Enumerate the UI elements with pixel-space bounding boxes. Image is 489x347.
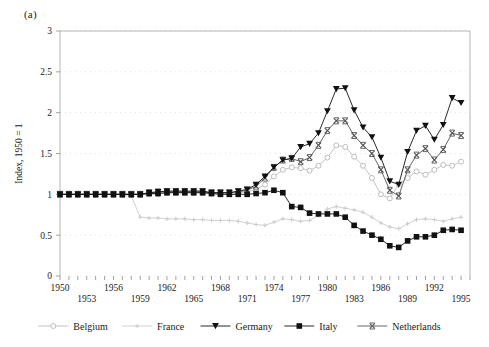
y-axis-title: Index, 1950 = 1 [14, 123, 24, 183]
open-circle-marker [263, 182, 268, 187]
axis-titles: Index, 1950 = 1 [14, 123, 24, 183]
series-line [60, 88, 461, 194]
y-tick-label: 1.5 [40, 149, 52, 159]
x-marker [396, 193, 401, 199]
legend-label: France [157, 321, 185, 332]
x-marker [414, 152, 419, 158]
open-circle-marker [378, 192, 383, 197]
plus-marker [227, 218, 231, 222]
legend-item-belgium[interactable]: Belgium [38, 321, 108, 332]
x-marker [352, 133, 357, 139]
x-marker [458, 133, 463, 139]
plus-marker [423, 217, 427, 221]
open-circle-marker [307, 168, 312, 173]
filled-triangle-marker [297, 144, 304, 150]
plus-marker [450, 217, 454, 221]
plus-marker [396, 226, 400, 230]
x-marker [387, 187, 392, 193]
plus-marker [245, 221, 249, 225]
y-tick-label: 2 [47, 108, 52, 118]
plus-marker [191, 217, 195, 221]
series-france [58, 192, 463, 231]
filled-square-marker [342, 214, 348, 220]
open-circle-marker [414, 169, 419, 174]
y-tick-label: 3 [47, 26, 52, 36]
filled-square-marker [325, 211, 331, 217]
filled-square-marker [378, 236, 384, 242]
x-tick-label: 1974 [264, 283, 283, 293]
plus-marker [209, 218, 213, 222]
series-line [60, 194, 461, 228]
open-circle-marker [325, 155, 330, 160]
filled-triangle-marker [404, 149, 411, 155]
open-circle-marker [316, 163, 321, 168]
filled-square-marker [280, 190, 286, 196]
legend-item-france[interactable]: France [122, 321, 185, 332]
filled-square-marker [405, 238, 411, 244]
open-circle-marker [298, 166, 303, 171]
filled-triangle-marker [431, 137, 438, 143]
plus-marker [135, 324, 139, 328]
series-italy [57, 187, 464, 250]
plus-marker [236, 219, 240, 223]
plus-marker [147, 216, 151, 220]
filled-square-marker [262, 190, 268, 196]
legend-item-germany[interactable]: Germany [201, 321, 273, 332]
filled-triangle-marker [413, 128, 420, 134]
open-circle-marker [334, 143, 339, 148]
open-circle-marker [432, 167, 437, 172]
plus-marker [405, 222, 409, 226]
open-circle-marker [271, 174, 276, 179]
y-tick-label: 0.5 [40, 231, 52, 241]
filled-triangle-marker [369, 134, 376, 140]
legend-item-italy[interactable]: Italy [284, 321, 337, 332]
plus-marker [352, 208, 356, 212]
open-circle-marker [450, 163, 455, 168]
filled-square-marker [289, 204, 295, 210]
plus-marker [334, 204, 338, 208]
figure-panel: (a) 00.511.522.5319501956196219681974198… [0, 0, 489, 347]
open-circle-marker [423, 172, 428, 177]
x-marker [450, 130, 455, 136]
filled-triangle-marker [449, 95, 456, 101]
open-circle-marker [343, 144, 348, 149]
open-circle-marker [387, 196, 392, 201]
filled-square-marker [360, 228, 366, 234]
filled-square-marker [387, 243, 393, 249]
filled-square-marker [334, 211, 340, 217]
filled-square-marker [298, 205, 304, 211]
open-circle-marker [352, 154, 357, 159]
x-tick-label: 1989 [398, 294, 417, 304]
x-tick-label: 1950 [51, 283, 70, 293]
x-marker [298, 159, 303, 165]
x-marker [307, 155, 312, 161]
plus-marker [281, 217, 285, 221]
plus-marker [254, 222, 258, 226]
plus-marker [307, 218, 311, 222]
plus-marker [218, 218, 222, 222]
x-marker [432, 157, 437, 163]
x-marker [405, 167, 410, 173]
plus-marker [432, 217, 436, 221]
filled-triangle-marker [377, 155, 384, 161]
x-marker [441, 146, 446, 152]
x-tick-label: 1983 [345, 294, 364, 304]
open-circle-marker [289, 165, 294, 170]
filled-triangle-marker [458, 100, 465, 106]
plus-marker [156, 216, 160, 220]
open-circle-marker [361, 163, 366, 168]
plus-marker [441, 219, 445, 223]
filled-square-marker [316, 211, 322, 217]
filled-square-marker [307, 210, 313, 216]
legend-item-netherlands[interactable]: Netherlands [357, 321, 440, 332]
plus-marker [361, 210, 365, 214]
filled-square-marker [253, 191, 259, 197]
x-tick-label: 1995 [452, 294, 471, 304]
open-circle-marker [459, 159, 464, 164]
filled-square-marker [449, 227, 455, 233]
plus-marker [414, 217, 418, 221]
y-tick-label: 0 [47, 271, 52, 281]
plus-marker [343, 206, 347, 210]
x-tick-label: 1986 [371, 283, 390, 293]
x-tick-label: 1992 [425, 283, 444, 293]
